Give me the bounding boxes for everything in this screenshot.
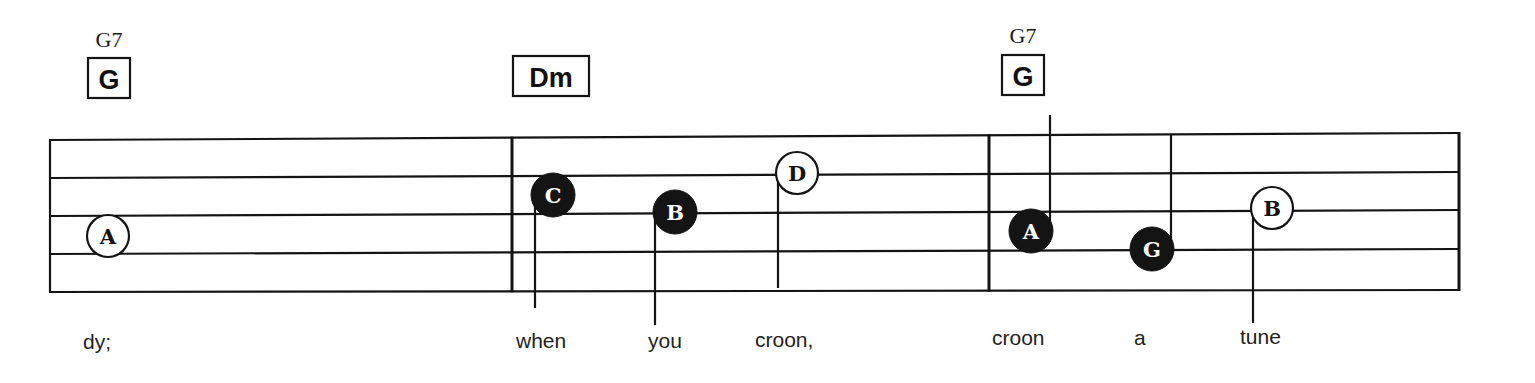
staff (50, 132, 1459, 293)
chord-symbol: G7G (1002, 23, 1044, 95)
chord-symbol: Dm (513, 56, 589, 96)
chord-box-text: G (98, 65, 119, 95)
note-b-open: B (1251, 187, 1293, 229)
chord-box-text: G (1012, 62, 1033, 92)
chord-symbols: G7GDmG7G (88, 23, 1044, 98)
note-c-filled: C (531, 173, 575, 217)
note-letter: C (545, 183, 562, 208)
note-b-filled: B (653, 190, 697, 234)
note-letter: G (1143, 237, 1161, 262)
lyric-syllable: croon, (755, 328, 813, 351)
lyric-syllable: croon (992, 326, 1045, 349)
note-letter: A (99, 224, 117, 249)
staff-line (50, 249, 1459, 254)
note-letter: D (788, 161, 806, 186)
note-g-filled: G (1130, 227, 1174, 271)
chord-name-label: G7 (1010, 23, 1037, 48)
note-a-open: A (87, 215, 129, 257)
chord-box-text: Dm (529, 63, 573, 93)
staff-line (50, 172, 1459, 178)
lyrics: dy;whenyoucroon,croonatune (83, 325, 1281, 353)
chord-symbol: G7G (88, 27, 130, 98)
staff-line (50, 290, 1459, 292)
note-d-open: D (776, 152, 818, 194)
staff-line (50, 133, 1459, 140)
note-stems (535, 115, 1253, 325)
lyric-syllable: tune (1240, 325, 1281, 348)
lyric-syllable: when (515, 329, 566, 352)
lyric-syllable: a (1134, 326, 1146, 349)
music-score: G7GDmG7G ACBDAGB dy;whenyoucroon,croonat… (0, 0, 1535, 383)
note-letter: B (1263, 196, 1281, 221)
note-a-filled: A (1009, 209, 1053, 253)
lyric-syllable: dy; (83, 330, 111, 353)
note-letter: A (1022, 219, 1040, 244)
note-letter: B (666, 200, 684, 225)
lyric-syllable: you (648, 329, 682, 352)
chord-name-label: G7 (96, 27, 123, 52)
staff-line (50, 210, 1459, 216)
